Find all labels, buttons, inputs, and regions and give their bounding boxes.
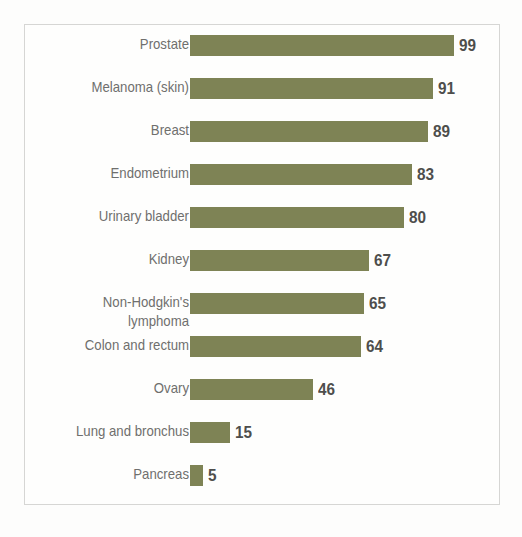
bar-value-label: 5	[208, 466, 217, 486]
bar-row: Ovary46	[25, 378, 499, 421]
bar-value-label: 64	[366, 337, 383, 357]
bar-fill	[190, 379, 313, 400]
bar-value-label: 80	[409, 208, 426, 228]
bar-track: 15	[190, 422, 254, 443]
bar-fill	[190, 78, 433, 99]
bar-track: 67	[190, 250, 393, 271]
bar-category-label: Prostate	[55, 34, 189, 53]
bar-row: Breast89	[25, 120, 499, 163]
bar-category-label: Colon and rectum	[55, 335, 189, 354]
bar-fill	[190, 121, 428, 142]
bar-category-label: Ovary	[55, 378, 189, 397]
bar-category-label: Urinary bladder	[55, 206, 189, 225]
survival-rate-bar-chart: Prostate99Melanoma (skin)91Breast89Endom…	[0, 0, 522, 537]
bar-track: 65	[190, 293, 387, 314]
bar-category-label: Melanoma (skin)	[55, 77, 189, 96]
chart-title	[24, 2, 500, 16]
bar-value-label: 99	[459, 36, 476, 56]
bar-row: Non-Hodgkin's lymphoma65	[25, 292, 499, 335]
bar-row: Endometrium83	[25, 163, 499, 206]
bar-value-label: 89	[433, 122, 450, 142]
bar-fill	[190, 336, 361, 357]
bar-category-label: Non-Hodgkin's lymphoma	[55, 292, 189, 330]
bar-value-label: 67	[374, 251, 391, 271]
bar-fill	[190, 207, 404, 228]
bar-row: Kidney67	[25, 249, 499, 292]
bar-row: Melanoma (skin)91	[25, 77, 499, 120]
plot-area: Prostate99Melanoma (skin)91Breast89Endom…	[25, 25, 499, 504]
bar-track: 91	[190, 78, 457, 99]
bar-row: Colon and rectum64	[25, 335, 499, 378]
bar-fill	[190, 422, 230, 443]
bar-track: 5	[190, 465, 218, 486]
bar-category-label: Kidney	[55, 249, 189, 268]
bar-category-label: Endometrium	[55, 163, 189, 182]
bar-category-label: Breast	[55, 120, 189, 139]
bar-track: 64	[190, 336, 385, 357]
bar-value-label: 15	[235, 423, 252, 443]
bar-value-label: 46	[318, 380, 335, 400]
bar-fill	[190, 35, 454, 56]
bar-track: 80	[190, 207, 428, 228]
bar-value-label: 91	[438, 79, 455, 99]
bar-row: Pancreas5	[25, 464, 499, 507]
bar-track: 83	[190, 164, 436, 185]
bar-track: 46	[190, 379, 337, 400]
bar-value-label: 83	[417, 165, 434, 185]
bar-category-label: Pancreas	[55, 464, 189, 483]
bar-fill	[190, 465, 203, 486]
bar-fill	[190, 293, 364, 314]
bar-row: Urinary bladder80	[25, 206, 499, 249]
bar-value-label: 65	[369, 294, 386, 314]
bar-row: Lung and bronchus15	[25, 421, 499, 464]
bar-fill	[190, 164, 412, 185]
bar-fill	[190, 250, 369, 271]
bar-track: 99	[190, 35, 478, 56]
bar-row: Prostate99	[25, 34, 499, 77]
bar-track: 89	[190, 121, 452, 142]
bar-category-label: Lung and bronchus	[55, 421, 189, 440]
